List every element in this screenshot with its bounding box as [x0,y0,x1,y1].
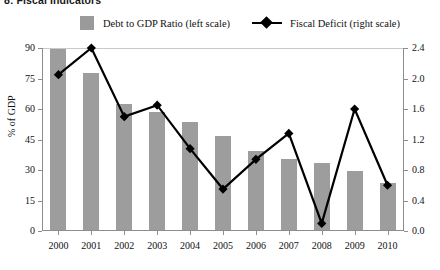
x-tick-mark [322,231,323,235]
left-tick-label: 60 [25,104,35,114]
x-tick-label-2000: 2000 [48,240,68,251]
legend-label-line: Fiscal Deficit (right scale) [290,18,400,29]
left-tick-label: 45 [25,135,35,145]
x-tick-mark [289,231,290,235]
x-tick-mark [223,231,224,235]
x-tick-mark [58,231,59,235]
line-marker-2002 [120,112,129,121]
chart-page: 8: Fiscal Indicators Debt to GDP Ratio (… [0,0,440,270]
line-marker-2010 [383,181,392,190]
plot-area: 0153045607590 0.00.40.81.21.62.02.4 2000… [42,48,404,231]
x-tick-mark [256,231,257,235]
legend-swatch-icon [80,16,94,30]
x-tick-label-2005: 2005 [213,240,233,251]
legend-label-bar: Debt to GDP Ratio (left scale) [103,18,230,29]
right-tick-mark [404,201,408,202]
x-tick-label-2008: 2008 [312,240,332,251]
right-tick-mark [404,79,408,80]
right-tick-mark [404,109,408,110]
right-tick-label: 0.4 [412,196,425,206]
line-marker-2009 [350,104,359,113]
right-tick-mark [404,48,408,49]
line-series [42,48,404,231]
x-tick-label-2004: 2004 [180,240,200,251]
x-tick-label-2009: 2009 [345,240,365,251]
x-tick-mark [388,231,389,235]
right-tick-mark [404,170,408,171]
left-tick-label: 30 [25,165,35,175]
right-tick-label: 1.6 [412,104,425,114]
fiscal-deficit-line [58,48,387,223]
legend-entry-bar: Debt to GDP Ratio (left scale) [80,16,230,30]
legend-line-marker-icon [252,16,282,30]
y-axis-title: % of GDP [6,95,17,137]
left-tick-label: 15 [25,196,35,206]
x-tick-label-2010: 2010 [378,240,398,251]
x-tick-label-2006: 2006 [246,240,266,251]
right-tick-label: 1.2 [412,135,425,145]
right-tick-label: 0.0 [412,226,425,236]
right-tick-mark [404,231,408,232]
right-tick-label: 0.8 [412,165,425,175]
x-tick-mark [190,231,191,235]
x-tick-label-2007: 2007 [279,240,299,251]
left-tick-mark [38,231,42,232]
x-tick-mark [91,231,92,235]
right-tick-label: 2.4 [412,43,425,53]
x-tick-mark [355,231,356,235]
chart-legend: Debt to GDP Ratio (left scale) Fiscal De… [80,14,400,32]
left-tick-label: 90 [25,43,35,53]
legend-entry-line: Fiscal Deficit (right scale) [230,16,400,30]
x-tick-label-2002: 2002 [114,240,134,251]
left-tick-label: 75 [25,74,35,84]
page-title: 8: Fiscal Indicators [4,0,101,6]
right-tick-mark [404,140,408,141]
left-tick-label: 0 [30,226,35,236]
x-tick-label-2001: 2001 [81,240,101,251]
x-tick-label-2003: 2003 [147,240,167,251]
line-marker-2008 [317,219,326,228]
right-tick-label: 2.0 [412,74,425,84]
x-tick-mark [124,231,125,235]
x-tick-mark [157,231,158,235]
